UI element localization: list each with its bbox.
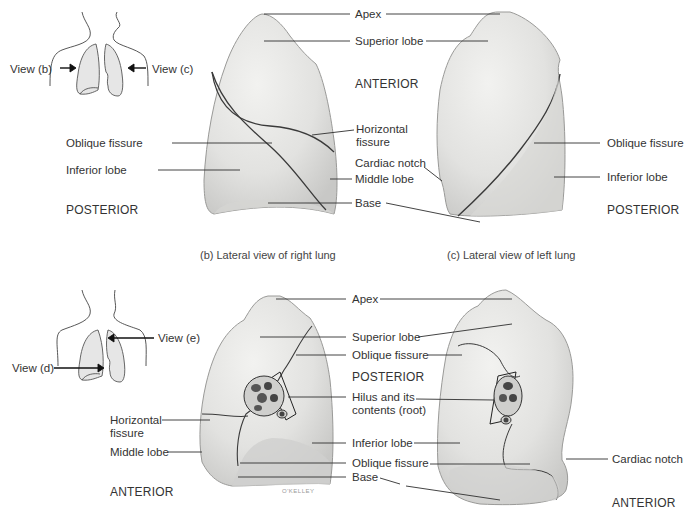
orientation-posterior-bottom: POSTERIOR — [352, 371, 424, 384]
view-b-label: View (b) — [10, 63, 52, 76]
orientation-posterior-c: POSTERIOR — [607, 204, 679, 217]
label-cardiac-notch-e: Cardiac notch — [612, 453, 683, 466]
orientation-anterior-d: ANTERIOR — [110, 486, 174, 499]
right-lung-lateral — [204, 14, 337, 214]
label-horizontal-fissure-d-2: fissure — [110, 427, 144, 440]
view-d-label: View (d) — [12, 362, 54, 375]
right-lung-medial — [200, 296, 333, 486]
inset-body-top — [50, 12, 148, 96]
lung-anatomy-figure: View (b) View (c) Apex Superior lobe ANT… — [0, 0, 692, 525]
inset-body-bottom — [54, 290, 154, 382]
label-superior-lobe-top: Superior lobe — [355, 35, 423, 48]
label-apex-top: Apex — [355, 8, 381, 21]
label-oblique-fissure-c: Oblique fissure — [607, 137, 684, 150]
label-middle-lobe-d: Middle lobe — [110, 446, 169, 459]
label-middle-lobe-b: Middle lobe — [355, 173, 414, 186]
orientation-anterior-top: ANTERIOR — [355, 78, 419, 91]
label-superior-lobe-bottom: Superior lobe — [352, 331, 420, 344]
label-apex-bottom: Apex — [352, 293, 378, 306]
label-oblique-fissure-lower: Oblique fissure — [352, 457, 429, 470]
label-horizontal-fissure-b-2: fissure — [356, 136, 390, 149]
right-lung-shape — [204, 14, 337, 214]
illustration-layer — [0, 0, 692, 525]
label-inferior-lobe-bottom: Inferior lobe — [352, 437, 413, 450]
label-base-top: Base — [355, 197, 381, 210]
label-inferior-lobe-c: Inferior lobe — [607, 171, 668, 184]
artist-signature: O'KELLEY — [282, 488, 315, 494]
label-inferior-lobe-b: Inferior lobe — [66, 164, 127, 177]
left-lung-lateral — [437, 12, 565, 216]
label-horizontal-fissure-d-1: Horizontal — [110, 414, 162, 427]
label-base-bottom: Base — [352, 471, 378, 484]
label-hilus-1: Hilus and its — [352, 391, 415, 404]
label-hilus-2: contents (root) — [352, 404, 426, 417]
caption-b: (b) Lateral view of right lung — [200, 249, 336, 262]
orientation-posterior-b: POSTERIOR — [66, 204, 138, 217]
label-cardiac-notch-c: Cardiac notch — [355, 157, 426, 170]
left-lung-medial — [437, 290, 573, 505]
orientation-anterior-e: ANTERIOR — [612, 497, 676, 510]
label-oblique-fissure-b: Oblique fissure — [66, 137, 143, 150]
caption-c: (c) Lateral view of left lung — [447, 249, 575, 262]
view-e-label: View (e) — [158, 332, 200, 345]
view-c-label: View (c) — [152, 63, 193, 76]
label-oblique-fissure-upper: Oblique fissure — [352, 349, 429, 362]
label-horizontal-fissure-b-1: Horizontal — [356, 123, 408, 136]
